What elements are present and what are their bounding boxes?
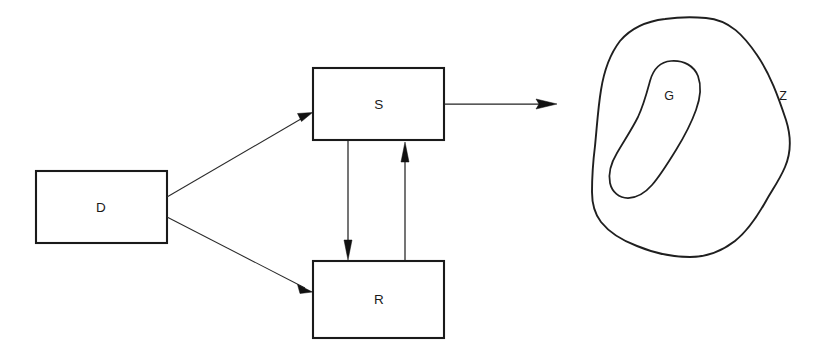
block-d[interactable]: D [36,171,167,243]
region-z-outline [592,17,790,257]
block-r[interactable]: R [313,261,444,338]
arrow-d-to-s-line [167,116,306,197]
arrow-r-to-s [401,142,409,260]
arrow-s-to-r-head [344,240,352,260]
region-g-outline [609,61,700,198]
region-z-label: Z [779,89,787,103]
arrow-d-to-s [167,113,313,198]
arrow-s-to-r [344,141,352,260]
arrow-s-output-head [536,99,557,109]
arrow-d-to-r-head [298,285,313,294]
diagram-canvas: D S R [0,0,822,360]
arrow-d-to-r [167,217,313,294]
arrow-s-output [444,99,557,109]
block-r-label: R [374,292,384,307]
arrow-r-to-s-head [401,142,409,162]
block-s[interactable]: S [313,68,444,140]
block-s-label: S [374,97,383,112]
region-g-label: G [664,89,674,103]
block-diagram-figure: D S R [0,0,822,360]
block-d-label: D [96,200,106,215]
arrow-d-to-r-line [167,217,305,288]
